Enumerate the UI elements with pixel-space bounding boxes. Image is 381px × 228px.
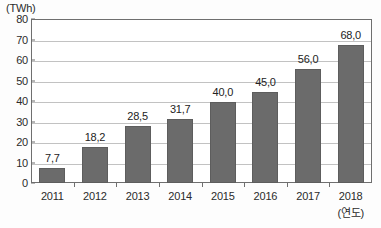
x-axis-tick-label: 2014 bbox=[168, 190, 192, 202]
y-axis-tick-label: 30 bbox=[2, 116, 28, 128]
bar-value-label: 40,0 bbox=[213, 86, 234, 98]
x-axis-tick-mark bbox=[74, 183, 75, 187]
bar bbox=[338, 45, 364, 183]
bar-value-label: 68,0 bbox=[340, 29, 361, 41]
x-axis-tick-label: 2015 bbox=[211, 190, 235, 202]
x-axis-tick-label: 2013 bbox=[126, 190, 150, 202]
y-axis-tick-mark bbox=[31, 142, 35, 143]
y-axis-tick-mark bbox=[31, 101, 35, 102]
y-axis-tick-label: 80 bbox=[2, 13, 28, 25]
y-axis-tick-label: 40 bbox=[2, 95, 28, 107]
x-axis-tick-mark bbox=[287, 183, 288, 187]
y-axis-tick-mark bbox=[31, 80, 35, 81]
x-axis-tick-mark bbox=[329, 183, 330, 187]
x-axis-tick-mark bbox=[159, 183, 160, 187]
y-axis-tick-label: 20 bbox=[2, 136, 28, 148]
bar bbox=[82, 147, 108, 183]
y-axis-tick-label: 60 bbox=[2, 54, 28, 66]
x-axis-unit-note: (연도) bbox=[337, 204, 364, 220]
y-axis-tick-label: 70 bbox=[2, 34, 28, 46]
bar bbox=[295, 69, 321, 183]
y-axis-tick-mark bbox=[31, 60, 35, 61]
bar-value-label: 56,0 bbox=[298, 53, 319, 65]
bar-value-label: 31,7 bbox=[170, 103, 191, 115]
gridline bbox=[32, 61, 371, 62]
y-axis-tick-label: 10 bbox=[2, 157, 28, 169]
bar-value-label: 45,0 bbox=[255, 76, 276, 88]
y-axis-tick-mark bbox=[31, 183, 35, 184]
y-axis-tick-mark bbox=[31, 39, 35, 40]
y-axis-tick-mark bbox=[31, 19, 35, 20]
bar bbox=[252, 92, 278, 183]
y-axis-tick-mark bbox=[31, 121, 35, 122]
bar-value-label: 28,5 bbox=[127, 110, 148, 122]
x-axis-tick-label: 2017 bbox=[296, 190, 320, 202]
bar-value-label: 18,2 bbox=[85, 131, 106, 143]
x-axis-tick-label: 2018 bbox=[339, 190, 363, 202]
x-axis-tick-mark bbox=[244, 183, 245, 187]
gridline bbox=[32, 41, 371, 42]
bar bbox=[39, 168, 65, 183]
x-axis-tick-mark bbox=[116, 183, 117, 187]
bar-chart-figure: (TWh) 01020304050607080 2011201220132014… bbox=[0, 0, 381, 228]
bar bbox=[125, 126, 151, 183]
x-axis-tick-label: 2012 bbox=[83, 190, 107, 202]
x-axis-tick-label: 2016 bbox=[254, 190, 278, 202]
x-axis-tick-mark bbox=[202, 183, 203, 187]
x-axis-tick-label: 2011 bbox=[41, 190, 64, 202]
y-axis-tick-label: 50 bbox=[2, 75, 28, 87]
bar bbox=[167, 119, 193, 183]
bar-value-label: 7,7 bbox=[45, 152, 60, 164]
bar bbox=[210, 102, 236, 183]
y-axis-tick-mark bbox=[31, 162, 35, 163]
y-axis-tick-label: 0 bbox=[2, 177, 28, 189]
